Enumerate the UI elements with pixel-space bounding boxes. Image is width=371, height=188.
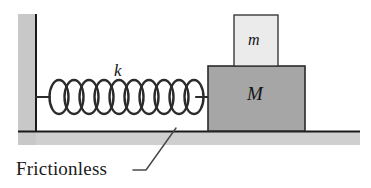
spring-constant-label: k — [114, 62, 122, 79]
frictionless-label: Frictionless — [16, 158, 107, 180]
block-m-label: m — [248, 32, 260, 48]
floor-surface — [18, 131, 360, 145]
block-M-label: M — [247, 84, 263, 103]
spring-mass-diagram: k m M Frictionless — [0, 0, 371, 188]
wall — [18, 14, 36, 145]
spring-coils — [50, 80, 204, 114]
